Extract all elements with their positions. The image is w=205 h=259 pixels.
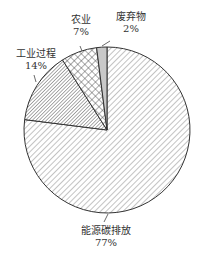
label-industry-name: 工业过程 (13, 48, 59, 60)
label-energy: 能源碳排放 77% (78, 225, 134, 249)
label-waste-name: 废弃物 (106, 11, 156, 23)
pie-chart (0, 0, 205, 259)
label-energy-name: 能源碳排放 (78, 225, 134, 237)
label-waste: 废弃物 2% (106, 11, 156, 35)
label-waste-pct: 2% (106, 23, 156, 35)
label-agriculture-pct: 7% (66, 26, 96, 38)
label-industry: 工业过程 14% (13, 48, 59, 72)
label-industry-pct: 14% (13, 60, 59, 72)
label-agriculture: 农业 7% (66, 14, 96, 38)
label-energy-pct: 77% (78, 237, 134, 249)
label-agriculture-name: 农业 (66, 14, 96, 26)
